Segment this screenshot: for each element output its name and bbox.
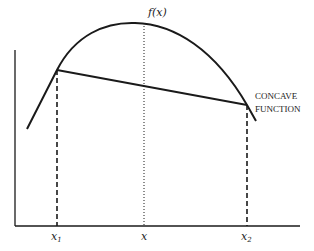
concave-function-diagram: f(x) x1 x x2 CONCAVE FUNCTION bbox=[0, 0, 314, 251]
curve-label: f(x) bbox=[147, 6, 167, 19]
annotation-line-2: FUNCTION bbox=[255, 104, 301, 114]
chord-line bbox=[57, 70, 247, 105]
x-label: x bbox=[141, 230, 148, 243]
annotation-line-1: CONCAVE bbox=[255, 91, 298, 101]
concave-curve bbox=[27, 23, 256, 129]
x2-label: x2 bbox=[241, 230, 252, 244]
x1-label: x1 bbox=[51, 230, 62, 244]
